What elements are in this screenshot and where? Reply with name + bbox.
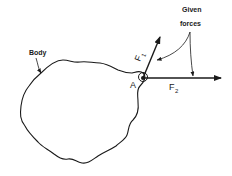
body-label: Body <box>29 49 47 57</box>
callout-leader-f1 <box>157 32 190 60</box>
force-f1-subscript: 1 <box>140 52 147 58</box>
diagram-canvas: Body Given forces A F 1 F 2 <box>0 0 232 176</box>
callout-label-given: Given <box>182 6 201 13</box>
force-f2-label: F 2 <box>169 82 179 94</box>
free-body-diagram: Body Given forces A F 1 F 2 <box>0 0 232 176</box>
force-f1-label: F 1 <box>133 50 148 64</box>
body-leader <box>36 58 41 73</box>
callout-leader-f2 <box>190 32 193 76</box>
callout-label-forces: forces <box>180 20 201 27</box>
body-outline <box>20 60 144 163</box>
point-a-label: A <box>130 80 136 90</box>
force-f2-subscript: 2 <box>175 88 179 94</box>
